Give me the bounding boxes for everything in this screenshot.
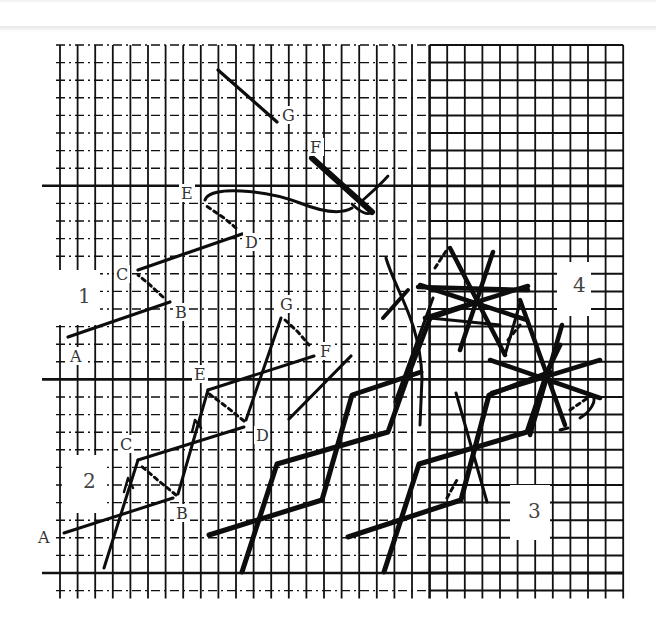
stitch-c-rise	[104, 460, 138, 568]
section-2-point-d: D	[256, 426, 269, 445]
section-number-3: 3	[528, 499, 541, 523]
section-2-point-f: F	[320, 342, 331, 361]
section-2-point-b: B	[176, 504, 188, 523]
section-2-point-a: A	[37, 528, 50, 547]
stitch-b-c-dashed	[140, 465, 176, 495]
section-2-stitches	[64, 318, 351, 568]
section-1-point-a: A	[69, 347, 82, 366]
section-1-point-g: G	[282, 106, 295, 125]
star-1	[418, 248, 528, 355]
stitch-d-e-dashed	[205, 205, 236, 228]
section-1-point-e: E	[181, 184, 193, 203]
section-1-point-d: D	[245, 233, 258, 252]
stitch-c-d	[138, 234, 242, 270]
section-2-point-g: G	[280, 295, 293, 314]
section-1-point-f: F	[310, 138, 321, 157]
section-number-2: 2	[83, 469, 96, 493]
section-1-point-c: C	[116, 265, 128, 284]
stitch-b-c-dashed	[138, 275, 163, 297]
stitch-3-up	[395, 298, 433, 402]
section-2-point-e: E	[194, 365, 206, 384]
stitch-diagram: 1234 ABCDEFGABCDEGF	[0, 0, 656, 628]
stitch-e-curve	[205, 191, 352, 212]
stitch-d-e-dashed	[208, 393, 244, 421]
section-1-point-b: B	[175, 303, 187, 322]
section-number-4: 4	[573, 273, 586, 297]
stitch-g	[218, 70, 277, 122]
section-2-point-c: C	[120, 435, 132, 454]
section-number-1: 1	[78, 284, 91, 308]
curve-left	[386, 258, 422, 425]
